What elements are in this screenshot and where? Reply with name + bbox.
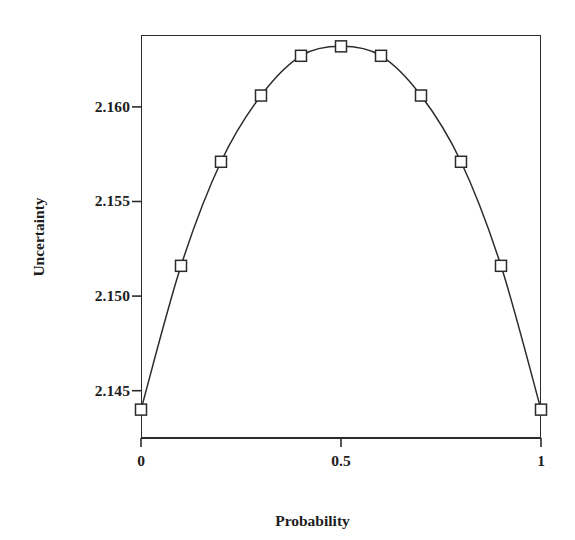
y-axis-title-text: Uncertainty (30, 197, 47, 276)
chart-figure: 2.1602.1552.1502.145 00.51 Uncertainty P… (0, 0, 575, 540)
x-axis-title: Probability (0, 512, 575, 530)
y-tick-label: 2.150 (95, 287, 130, 305)
y-axis-ticks (132, 107, 141, 391)
x-axis-title-text: Probability (225, 512, 350, 530)
plot-frame (141, 35, 541, 438)
y-tick-label: 2.160 (95, 98, 130, 116)
y-tick-label: 2.155 (95, 192, 130, 210)
x-tick-label: 0.5 (331, 452, 350, 470)
x-tick-label: 0 (137, 452, 145, 470)
y-tick-label: 2.145 (95, 382, 130, 400)
y-tick-label-group: 2.1602.1552.1502.145 (40, 0, 130, 540)
y-axis-title: Uncertainty (30, 167, 48, 307)
x-axis-ticks (141, 438, 541, 447)
x-tick-label: 1 (537, 452, 545, 470)
